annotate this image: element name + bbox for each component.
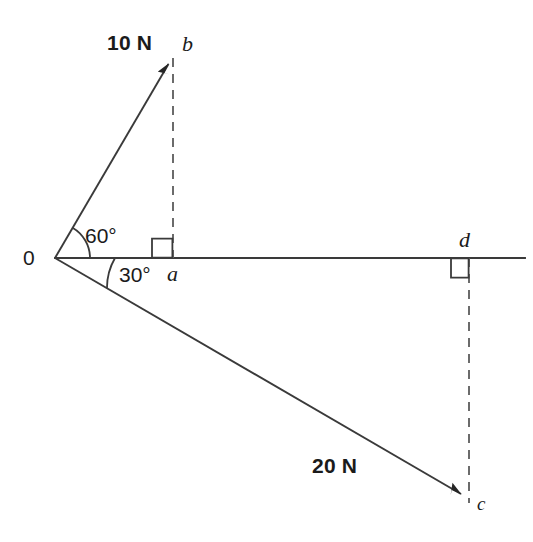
force-label-20n: 20 N (312, 455, 357, 476)
vector-20n-line (55, 258, 461, 494)
force-vector-diagram: 0 10 N b 60° 30° a d 20 N c (0, 0, 533, 542)
force-label-10n: 10 N (107, 32, 152, 53)
angle-label-60: 60° (85, 225, 117, 246)
point-label-c: c (477, 494, 485, 513)
right-angle-marker-d (451, 258, 469, 277)
point-label-a: a (167, 263, 178, 285)
diagram-canvas (0, 0, 533, 542)
origin-label: 0 (23, 247, 35, 268)
right-angle-marker-a (152, 239, 172, 258)
angle-arc-30 (107, 258, 115, 288)
point-label-d: d (459, 229, 470, 251)
point-label-b: b (182, 33, 193, 55)
angle-label-30: 30° (119, 264, 151, 285)
